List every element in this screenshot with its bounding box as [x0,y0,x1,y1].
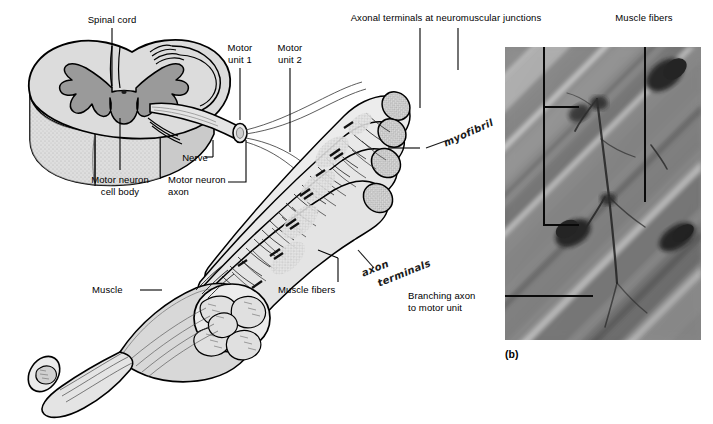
micrograph-photo [505,47,701,340]
label-motor-neuron-cell-body: Motor neuron cell body [56,174,184,197]
label-motor-unit-1: Motor unit 1 [212,42,268,65]
photo-leader-horizontal-lower [543,224,579,226]
figure-canvas: Spinal cord Motor neuron cell body Nerve… [0,0,713,424]
photo-leader-vertical-bracket [543,106,545,225]
muscle-belly [22,266,270,417]
label-muscle-fibers-bottom: Muscle fibers [278,284,370,296]
photo-leader-vertical-left [543,47,545,107]
panel-label-b: (b) [505,348,518,360]
label-motor-neuron-axon: Motor neuron axon [168,174,260,197]
label-branching-axon: Branching axon to motor unit [408,290,516,313]
label-muscle: Muscle [92,284,140,296]
photo-leader-horizontal-upper [543,106,579,108]
fascicle-cross-section [194,284,270,360]
label-muscle-fibers-top: Muscle fibers [594,12,694,24]
myofibril-pointer [418,136,450,154]
label-axonal-terminals: Axonal terminals at neuromuscular juncti… [330,12,562,24]
label-motor-unit-2: Motor unit 2 [262,42,318,65]
label-spinal-cord: Spinal cord [62,14,162,26]
axon-terminals-pointer [352,246,378,272]
photo-leader-vertical-right [644,47,646,202]
photo-leader-branching-axon [505,295,593,297]
label-nerve: Nerve [168,152,208,164]
